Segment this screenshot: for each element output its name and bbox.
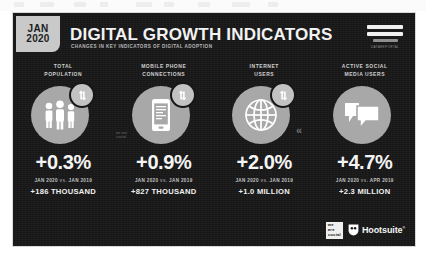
- growth-arrows-badge: [170, 82, 196, 108]
- logo-bar-3: [373, 39, 398, 42]
- hootsuite-chevron-watermark: «: [296, 124, 302, 136]
- growth-percent: +4.7%: [337, 152, 392, 172]
- column-heading: TOTAL POPULATION: [44, 63, 82, 80]
- page-background-strip: [0, 0, 426, 11]
- up-down-arrows-icon: [177, 90, 188, 101]
- footer-logos: we are social Hootsuite®: [326, 222, 405, 239]
- page-subtitle: CHANGES IN KEY INDICATORS OF DIGITAL ADO…: [71, 44, 212, 49]
- comparison-label: JAN 2020 vs. JAN 2019: [34, 178, 92, 183]
- infographic-slide: JAN 2020 DIGITAL GROWTH INDICATORS CHANG…: [12, 12, 416, 247]
- growth-arrows-badge: [69, 82, 95, 108]
- page-title: DIGITAL GROWTH INDICATORS: [70, 25, 333, 45]
- up-down-arrows-icon: [278, 90, 289, 101]
- icon-wrap: [329, 82, 401, 148]
- absolute-change: +827 THOUSAND: [131, 187, 197, 196]
- absolute-change: +1.0 MILLION: [239, 187, 290, 196]
- icon-wrap: [228, 82, 300, 148]
- column-heading: INTERNET USERS: [250, 63, 279, 80]
- comparison-label: JAN 2020 vs. APR 2019: [336, 178, 394, 183]
- we-are-social-watermark: we are social: [116, 131, 138, 139]
- logo-bar-1: [367, 25, 403, 29]
- column-heading: MOBILE PHONE CONNECTIONS: [141, 63, 186, 80]
- comparison-label: JAN 2020 vs. JAN 2019: [235, 178, 293, 183]
- datareportal-logo: DATAREPORTAL: [367, 25, 403, 49]
- hootsuite-owl-icon: [348, 224, 359, 236]
- we-are-social-logo: we are social: [326, 222, 343, 239]
- indicator-column-active-social-media-users: ACTIVE SOCIAL MEDIA USERS +4.7% JAN 2020…: [315, 63, 416, 196]
- column-heading: ACTIVE SOCIAL MEDIA USERS: [342, 63, 388, 80]
- absolute-change: +186 THOUSAND: [31, 187, 97, 196]
- up-down-arrows-icon: [77, 90, 88, 101]
- indicator-columns: TOTAL POPULATION: [13, 63, 415, 196]
- logo-bar-2: [367, 32, 403, 36]
- growth-percent: +2.0%: [237, 152, 292, 172]
- comparison-label: JAN 2020 vs. JAN 2019: [135, 178, 193, 183]
- icon-disc: [333, 86, 391, 144]
- icon-wrap: [27, 82, 99, 148]
- indicator-column-mobile-phone-connections: MOBILE PHONE CONNECTIONS: [114, 63, 215, 196]
- date-badge: JAN 2020: [16, 16, 60, 52]
- date-badge-year: 2020: [26, 34, 49, 45]
- growth-percent: +0.3%: [36, 152, 91, 172]
- indicator-column-total-population: TOTAL POPULATION: [13, 63, 114, 196]
- speech-bubbles-icon: [344, 100, 380, 130]
- absolute-change: +2.3 MILLION: [339, 187, 390, 196]
- smartphone-icon: [149, 98, 173, 132]
- hootsuite-wordmark: Hootsuite®: [362, 225, 405, 235]
- growth-arrows-badge: [270, 82, 296, 108]
- growth-percent: +0.9%: [136, 152, 191, 172]
- datareportal-logo-label: DATAREPORTAL: [367, 45, 403, 49]
- icon-wrap: [128, 82, 200, 148]
- hootsuite-logo: Hootsuite®: [348, 224, 405, 236]
